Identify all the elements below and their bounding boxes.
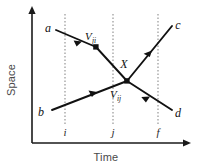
flow-label-lower: V ij — [110, 88, 121, 103]
x-tick-label-f: f — [156, 126, 161, 138]
flow-label-lower-subscript: ij — [117, 94, 121, 103]
space-time-diagram: a b c d X V ji V ij i j f Time Space — [0, 0, 198, 168]
x-tick-label-j: j — [109, 126, 114, 138]
y-axis-arrowhead — [28, 6, 35, 14]
x-axis-arrowhead — [183, 139, 191, 146]
label-crossing-x: X — [119, 57, 128, 71]
label-point-c: c — [175, 18, 181, 32]
x-axis-title: Time — [94, 151, 119, 163]
y-axis-title: Space — [5, 64, 17, 96]
flow-label-upper-subscript: ji — [91, 36, 96, 45]
guide-line-group — [65, 14, 158, 126]
diagram-canvas: a b c d X V ji V ij i j f Time Space — [0, 0, 198, 168]
axis-group — [28, 6, 191, 147]
label-point-a: a — [45, 21, 51, 35]
trajectory-a-to-d-arrowhead-2 — [141, 97, 150, 103]
label-point-d: d — [175, 106, 182, 120]
label-point-b: b — [38, 105, 44, 119]
bend-upper-marker — [93, 44, 98, 49]
crossing-point-marker — [124, 78, 129, 83]
x-tick-label-i: i — [63, 126, 66, 138]
